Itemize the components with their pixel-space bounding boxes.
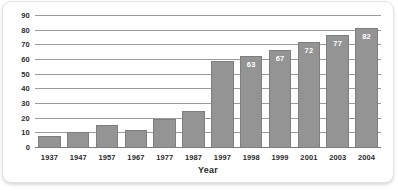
x-axis-tick-label: 1957 (93, 153, 122, 162)
bar[interactable] (38, 136, 60, 148)
bar-slot: 1957 (93, 16, 122, 148)
y-axis-tick-label: 50 (21, 69, 30, 78)
bar-slot: 772003 (323, 16, 352, 148)
y-axis-tick-label: 70 (21, 40, 30, 49)
chart-frame: 90 80 70 60 50 40 30 20 10 0 19371947195… (2, 1, 394, 183)
bar-value-label: 72 (299, 46, 319, 55)
bar-slot: 1977 (150, 16, 179, 148)
bar[interactable]: 82 (355, 28, 377, 148)
bar-slot: 1997 (208, 16, 237, 148)
x-axis-tick-label: 1998 (237, 153, 266, 162)
bar-slot: 671999 (266, 16, 295, 148)
x-axis-title: Year (35, 165, 381, 175)
bar[interactable]: 77 (326, 35, 348, 148)
y-axis-tick-label: 90 (21, 11, 30, 20)
y-axis-tick-label: 80 (21, 25, 30, 34)
y-axis-tick-label: 20 (21, 113, 30, 122)
y-axis-tick-label: 40 (21, 84, 30, 93)
bar-slot: 1937 (35, 16, 64, 148)
bar-series: 1937194719571967197719871997631998671999… (35, 16, 381, 148)
x-axis-tick-label: 2001 (295, 153, 324, 162)
bar-slot: 1947 (64, 16, 93, 148)
bar[interactable] (125, 130, 147, 148)
x-axis-tick-label: 1977 (150, 153, 179, 162)
bar[interactable] (153, 119, 175, 148)
bar-slot: 631998 (237, 16, 266, 148)
y-axis-tick-label: 30 (21, 99, 30, 108)
bar[interactable]: 72 (298, 42, 320, 148)
bar-slot: 822004 (352, 16, 381, 148)
y-axis-tick-label: 10 (21, 128, 30, 137)
y-axis-tick-label: 0 (26, 143, 30, 152)
x-axis-tick-label: 1937 (35, 153, 64, 162)
x-axis-tick-label: 1947 (64, 153, 93, 162)
bar-slot: 1987 (179, 16, 208, 148)
x-axis-tick-label: 1967 (122, 153, 151, 162)
bar[interactable] (182, 111, 204, 148)
bar-value-label: 67 (270, 54, 290, 63)
bar[interactable]: 63 (240, 56, 262, 148)
x-axis-tick-label: 1999 (266, 153, 295, 162)
bar-slot: 1967 (122, 16, 151, 148)
y-axis-tick-label: 60 (21, 55, 30, 64)
plot-area: 90 80 70 60 50 40 30 20 10 0 19371947195… (35, 16, 381, 148)
x-axis-tick-label: 2003 (323, 153, 352, 162)
bar-value-label: 82 (356, 32, 376, 41)
x-axis-tick-label: 2004 (352, 153, 381, 162)
bar[interactable] (67, 132, 89, 148)
x-axis-tick-label: 1997 (208, 153, 237, 162)
bar[interactable] (96, 125, 118, 148)
bar[interactable] (211, 61, 233, 148)
bar-value-label: 77 (327, 39, 347, 48)
bar-slot: 722001 (295, 16, 324, 148)
x-axis-tick-label: 1987 (179, 153, 208, 162)
bar[interactable]: 67 (269, 50, 291, 148)
bar-value-label: 63 (241, 60, 261, 69)
